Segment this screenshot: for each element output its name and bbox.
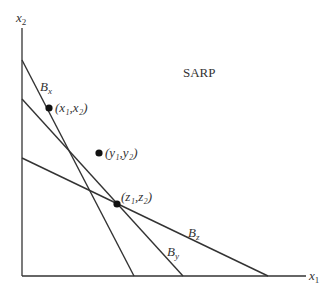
point-x	[45, 104, 52, 111]
label-by: By	[167, 244, 179, 261]
y-axis-label: x2	[15, 10, 26, 27]
point-y	[95, 149, 102, 156]
sarp-label: SARP	[183, 65, 216, 80]
x-axis-label: x1	[308, 268, 319, 285]
point-z	[113, 200, 120, 207]
label-point-z: (z₁,z₂)	[121, 189, 152, 204]
budget-line-bx	[22, 60, 134, 276]
sarp-diagram: x2 x1 Bx By Bz (x₁,x₂) (y₁,y₂) (z₁,z₂) S…	[0, 0, 334, 294]
label-point-y: (y₁,y₂)	[105, 145, 138, 160]
label-bz: Bz	[188, 225, 200, 242]
budget-line-by	[22, 99, 183, 276]
label-point-x: (x₁,x₂)	[55, 100, 88, 115]
label-bx: Bx	[40, 79, 52, 96]
budget-line-bz	[22, 158, 268, 276]
